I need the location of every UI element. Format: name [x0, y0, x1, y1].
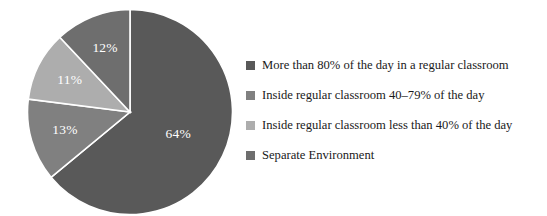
pie-slice-value-label: 64%: [166, 126, 191, 141]
pie-chart-figure: 64%13%11%12% More than 80% of the day in…: [0, 0, 547, 216]
pie-chart-svg: 64%13%11%12%: [27, 9, 233, 215]
legend-item-label: Inside regular classroom 40–79% of the d…: [262, 89, 484, 102]
pie-slice-value-label: 13%: [52, 122, 77, 137]
legend-swatch-icon: [246, 151, 255, 160]
pie-slice-value-label: 11%: [57, 72, 82, 87]
legend-item-label: Inside regular classroom less than 40% o…: [262, 119, 512, 132]
pie-chart-plot-area: 64%13%11%12%: [27, 9, 233, 215]
chart-legend: More than 80% of the day in a regular cl…: [246, 50, 541, 170]
legend-item-label: Separate Environment: [262, 149, 374, 162]
legend-swatch-icon: [246, 121, 255, 130]
legend-item[interactable]: Separate Environment: [246, 140, 541, 170]
legend-item[interactable]: Inside regular classroom less than 40% o…: [246, 110, 541, 140]
legend-item-label: More than 80% of the day in a regular cl…: [262, 59, 509, 72]
legend-item[interactable]: Inside regular classroom 40–79% of the d…: [246, 80, 541, 110]
pie-slice-value-label: 12%: [92, 40, 117, 55]
pie-slice-group: [28, 10, 233, 215]
legend-swatch-icon: [246, 91, 255, 100]
legend-item[interactable]: More than 80% of the day in a regular cl…: [246, 50, 541, 80]
legend-swatch-icon: [246, 61, 255, 70]
